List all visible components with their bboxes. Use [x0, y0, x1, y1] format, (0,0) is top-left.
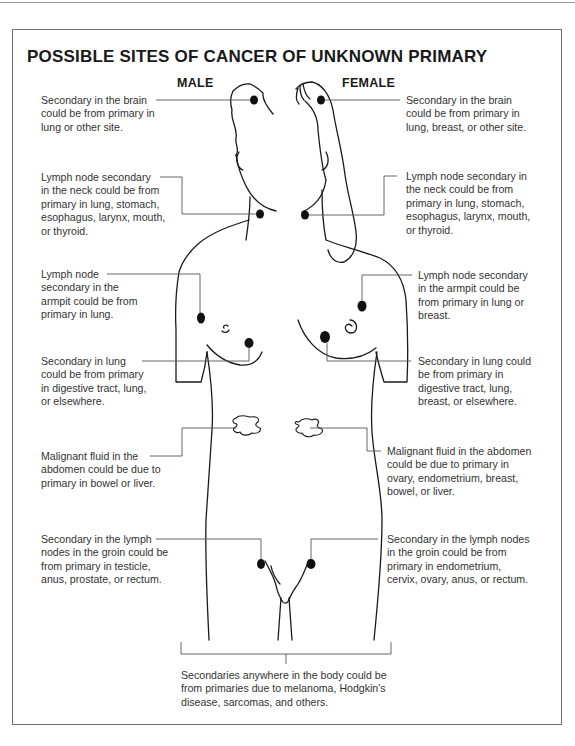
female-nipple: [345, 320, 356, 333]
female-hair-outline: [296, 82, 356, 262]
female-abdomen-label: Malignant fluid in the abdomen could be …: [387, 445, 531, 499]
male-groin-leader: [156, 539, 261, 559]
male-shoulder: [176, 220, 249, 382]
male-chest-line: [207, 345, 262, 365]
whole-body-bracket: [181, 642, 391, 654]
male-abdomen-fluid-icon: [233, 416, 260, 436]
female-armpit-dot: [358, 301, 367, 312]
female-groin-leader: [311, 539, 378, 559]
female-neck: [322, 190, 408, 382]
male-lung-leader: [142, 348, 249, 361]
male-nipple: [222, 325, 229, 332]
female-armpit-label: Lymph node secondary in the armpit could…: [418, 269, 528, 323]
male-abdomen-leader: [150, 428, 236, 456]
female-lung-label: Secondary in lung could be from primary …: [418, 355, 531, 409]
male-neck-leader: [160, 177, 256, 214]
female-neck-dot: [301, 211, 309, 220]
male-lung-label: Secondary in lung could be from primary …: [41, 355, 146, 409]
male-armpit-dot: [197, 313, 205, 324]
female-armpit-leader: [362, 275, 412, 300]
female-groin-dot: [307, 559, 316, 569]
female-brain-dot: [317, 96, 325, 105]
male-lung-dot: [245, 338, 254, 348]
female-abdomen-leader: [310, 428, 381, 451]
male-hair-outline: [231, 84, 273, 155]
female-leg-inner: [289, 598, 292, 640]
male-neck-label: Lymph node secondary in the neck could b…: [41, 171, 165, 238]
female-groin-label: Secondary in the lymph nodes in the groi…: [387, 533, 530, 587]
female-lung-dot: [320, 331, 330, 343]
male-ear: [237, 152, 243, 170]
male-groin-label: Secondary in the lymph nodes in the groi…: [41, 533, 168, 587]
male-brain-label: Secondary in the brain could be from pri…: [41, 94, 155, 134]
male-torso-side: [206, 352, 213, 640]
male-armpit-label: Lymph node secondary in the armpit could…: [41, 268, 138, 322]
male-neck-dot: [256, 210, 264, 219]
male-brain-dot: [250, 96, 258, 105]
male-groin-dot: [257, 559, 265, 569]
female-groin-line: [289, 560, 309, 600]
male-neck: [246, 197, 250, 240]
female-breast-line: [298, 320, 376, 359]
male-leg-inner: [278, 598, 281, 640]
male-abdomen-label: Malignant fluid in the abdomen could be …: [41, 450, 161, 490]
female-crotch: [282, 600, 289, 603]
male-face-outline: [236, 155, 276, 211]
male-groin-line-1: [265, 561, 282, 601]
female-torso-side: [371, 352, 382, 640]
whole-body-note: Secondaries anywhere in the body could b…: [181, 669, 387, 709]
female-neck-label: Lymph node secondary in the neck could b…: [406, 170, 530, 237]
female-brain-label: Secondary in the brain could be from pri…: [406, 94, 526, 134]
